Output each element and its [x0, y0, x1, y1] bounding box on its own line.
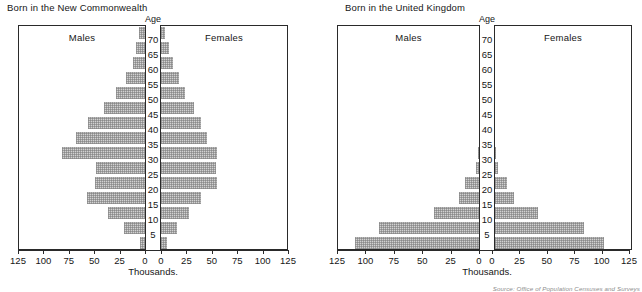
x-axis-tick-label: 100 [357, 255, 373, 266]
x-axis-tick [237, 250, 238, 254]
x-axis-tick [43, 250, 44, 254]
age-tick-label: 5 [146, 230, 160, 240]
age-tick-label: 10 [146, 215, 160, 225]
bar-female-15-19 [161, 192, 201, 205]
x-axis-tick-label: 125 [329, 255, 345, 266]
x-axis-tick [547, 250, 548, 254]
bar-male-5-9 [379, 222, 479, 235]
plot-area: Males Females 70656055504540353025201510… [337, 25, 629, 250]
x-axis-tick-label: 50 [89, 255, 100, 266]
age-tick-label: 55 [480, 80, 494, 90]
females-half: Females [161, 25, 288, 250]
x-axis-tick [18, 250, 19, 254]
age-tick-label: 65 [480, 50, 494, 60]
bar-male-25-29 [96, 162, 145, 175]
bar-male-10-14 [434, 207, 479, 220]
age-tick-label: 30 [480, 155, 494, 165]
bar-male-60-64 [133, 57, 145, 70]
bar-female-10-14 [161, 207, 189, 220]
age-tick-label: 10 [480, 215, 494, 225]
age-tick-label: 5 [480, 230, 494, 240]
age-tick-label: 45 [480, 110, 494, 120]
bar-female-50-54 [161, 87, 185, 100]
age-tick-label: 25 [480, 170, 494, 180]
bar-female-20-24 [161, 177, 217, 190]
x-axis-tick [337, 250, 338, 254]
age-tick-label: 35 [146, 140, 160, 150]
bar-female-30-34 [161, 147, 217, 160]
x-axis-tick [263, 250, 264, 254]
x-axis-tick-label: 100 [255, 255, 271, 266]
bar-female-20-24 [495, 177, 507, 190]
x-axis-tick [451, 250, 452, 254]
bar-female-0-4 [161, 237, 167, 250]
bar-female-35-39 [161, 132, 207, 145]
x-axis-tick-label: 25 [445, 255, 456, 266]
x-axis-caption: Thousands. [128, 266, 178, 277]
age-tick-label: 70 [146, 35, 160, 45]
x-axis-tick [602, 250, 603, 254]
x-axis-tick [186, 250, 187, 254]
x-axis [18, 250, 288, 251]
bar-female-5-9 [495, 222, 584, 235]
bar-female-5-9 [161, 222, 177, 235]
x-axis-tick [212, 250, 213, 254]
x-axis-tick [574, 250, 575, 254]
age-tick-label: 15 [480, 200, 494, 210]
bar-male-15-19 [459, 192, 479, 205]
age-tick-label: 40 [146, 125, 160, 135]
age-tick-label: 65 [146, 50, 160, 60]
age-tick-label: 70 [480, 35, 494, 45]
bar-female-0-4 [495, 237, 604, 250]
age-axis-caption: Age [479, 14, 495, 24]
age-tick-label: 20 [146, 185, 160, 195]
source-note: Source: Office of Population Censuses an… [493, 285, 640, 292]
age-tick-label: 35 [480, 140, 494, 150]
age-tick-label: 60 [480, 65, 494, 75]
bar-male-30-34 [62, 147, 145, 160]
bar-male-35-39 [76, 132, 145, 145]
x-axis-tick-label: 25 [114, 255, 125, 266]
x-axis-tick-label: 75 [64, 255, 75, 266]
bar-male-5-9 [124, 222, 145, 235]
bar-female-10-14 [495, 207, 538, 220]
bar-female-65-69 [161, 42, 169, 55]
x-axis-tick [519, 250, 520, 254]
x-axis-tick [94, 250, 95, 254]
x-axis-tick [422, 250, 423, 254]
bar-male-40-44 [88, 117, 145, 130]
x-axis-tick-label: 100 [35, 255, 51, 266]
x-axis-tick-label: 100 [594, 255, 610, 266]
x-axis-tick-label: 0 [489, 255, 494, 266]
bar-male-65-69 [136, 42, 145, 55]
x-axis-tick [69, 250, 70, 254]
age-tick-label: 40 [480, 125, 494, 135]
bar-male-10-14 [108, 207, 145, 220]
age-tick-label: 30 [146, 155, 160, 165]
x-axis-tick [479, 250, 480, 254]
bar-male-0-4 [355, 237, 479, 250]
age-axis-strip: 706560555045403530252015105 [479, 25, 495, 250]
x-axis-tick [288, 250, 289, 254]
bar-male-45-49 [104, 102, 145, 115]
x-axis-tick-label: 125 [621, 255, 637, 266]
age-tick-label: 15 [146, 200, 160, 210]
bar-female-30-34 [495, 147, 496, 160]
x-axis-tick-label: 50 [417, 255, 428, 266]
bar-male-50-54 [116, 87, 145, 100]
bar-male-20-24 [95, 177, 145, 190]
x-axis-tick-label: 0 [158, 255, 163, 266]
x-axis-tick-label: 75 [569, 255, 580, 266]
x-axis-tick-label: 75 [232, 255, 243, 266]
age-tick-label: 20 [480, 185, 494, 195]
females-half: Females [495, 25, 632, 250]
males-label: Males [19, 32, 145, 43]
age-tick-label: 55 [146, 80, 160, 90]
bar-female-40-44 [161, 117, 201, 130]
x-axis-tick [492, 250, 493, 254]
males-half: Males [18, 25, 145, 250]
x-axis-tick [120, 250, 121, 254]
age-axis-caption: Age [145, 14, 161, 24]
bar-female-15-19 [495, 192, 514, 205]
